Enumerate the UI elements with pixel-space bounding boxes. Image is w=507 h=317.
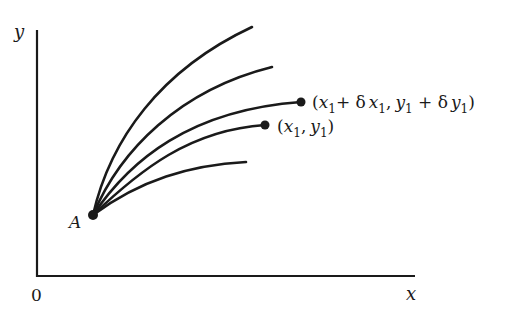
y-axis-label: y: [13, 21, 25, 42]
point-a-label: A: [67, 212, 81, 232]
curve-2: [93, 67, 272, 215]
point-label: (x1,y1): [277, 116, 334, 140]
origin-label: 0: [31, 285, 42, 305]
curve-3: [93, 102, 301, 215]
point-marker: [261, 121, 270, 130]
diagram-canvas: y x 0 A (x1+ δx1,y1 + δy1) (x1,y1): [0, 0, 507, 317]
perturbed-point-label: (x1+ δx1,y1 + δy1): [312, 92, 475, 116]
point-a-marker: [88, 210, 98, 220]
curve-5: [93, 162, 246, 215]
curve-1: [93, 27, 252, 215]
x-axis-label: x: [406, 283, 416, 304]
perturbed-point-marker: [297, 98, 306, 107]
